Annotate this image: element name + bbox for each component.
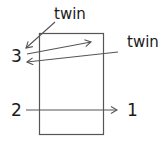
label-twin-top: twin [54, 7, 86, 22]
label-1: 1 [127, 102, 138, 119]
arrow-twin-top-to-3 [26, 22, 55, 48]
label-2: 2 [11, 102, 22, 119]
arrow-twin-right-to-3 [27, 52, 118, 62]
label-twin-right: twin [127, 35, 159, 50]
label-3: 3 [11, 48, 22, 65]
arrow-3-to-inside-box [27, 42, 91, 54]
diagram-canvas: twin twin 3 2 1 [0, 0, 167, 142]
box [40, 34, 104, 135]
